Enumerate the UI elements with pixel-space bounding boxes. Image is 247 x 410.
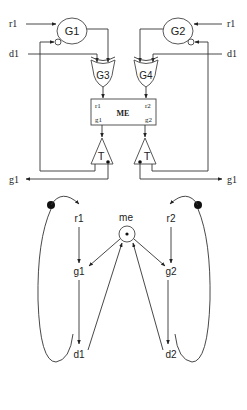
input-r1-left: r1 — [9, 18, 17, 29]
node-me-label: me — [119, 212, 133, 223]
mutex-r1: r1 — [95, 102, 101, 110]
circuit-diagram: G1 G2 r1 d1 r1 d1 G3 — [9, 18, 237, 185]
toggle-left: T — [91, 138, 113, 164]
gate-g2: G2 — [163, 18, 194, 45]
toggle-right: T — [134, 138, 156, 164]
node-me-token — [125, 232, 128, 235]
node-r1: r1 — [75, 213, 84, 224]
mutex-title: ME — [117, 109, 130, 118]
inverter-bubble-g2 — [188, 39, 194, 45]
input-r1-right: r1 — [227, 18, 235, 29]
mutex-r2: r2 — [145, 102, 151, 110]
input-d1-left: d1 — [9, 48, 19, 59]
mutex-block: r1 r2 g1 g2 ME — [91, 99, 156, 125]
diagram-canvas: G1 G2 r1 d1 r1 d1 G3 — [0, 0, 247, 410]
toggle-left-label: T — [98, 150, 105, 162]
state-graph: r1 me r2 g1 g2 d1 d2 — [38, 196, 210, 362]
toggle-right-label: T — [144, 150, 151, 162]
node-g1: g1 — [73, 266, 85, 277]
node-d2: d2 — [165, 349, 177, 360]
mutex-g1: g1 — [95, 116, 103, 124]
output-g1-left: g1 — [9, 174, 19, 185]
gate-g3-xor: G3 — [91, 57, 115, 87]
output-g1-right: g1 — [227, 174, 237, 185]
node-g2: g2 — [165, 266, 177, 277]
gate-g3-label: G3 — [96, 70, 110, 81]
gate-g4-label: G4 — [139, 70, 153, 81]
input-d1-right: d1 — [227, 48, 237, 59]
feedback-wire-right — [152, 42, 208, 171]
node-r2: r2 — [167, 213, 176, 224]
loop-left — [38, 209, 73, 362]
inverter-bubble-g1 — [55, 39, 61, 45]
feedback-wire-left — [40, 42, 95, 171]
gate-g2-label: G2 — [171, 25, 186, 37]
node-d1: d1 — [73, 349, 85, 360]
gate-g4-xor: G4 — [134, 57, 158, 87]
toggle-right-dot — [138, 160, 142, 164]
gate-g1: G1 — [55, 18, 87, 45]
toggle-left-dot — [106, 160, 110, 164]
gate-g1-label: G1 — [65, 25, 80, 37]
loop-right — [175, 209, 210, 362]
mutex-g2: g2 — [145, 116, 153, 124]
output-wire-left — [26, 164, 108, 179]
